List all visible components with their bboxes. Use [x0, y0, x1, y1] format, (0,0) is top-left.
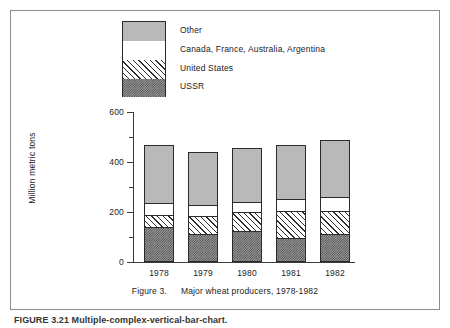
- page-undertext-line: FIGURE 3.21 Multiple-complex-vertical-ba…: [14, 315, 444, 326]
- bar-segment-canada-france-australia-argentina-1979: [189, 205, 217, 216]
- bar-segment-united-states-1980: [233, 212, 261, 232]
- bar-segment-canada-france-australia-argentina-1982: [321, 197, 349, 212]
- bar-segment-other-1981: [277, 146, 305, 198]
- y-tick-label-400: 400: [96, 158, 124, 167]
- bar-segment-canada-france-australia-argentina-1978: [145, 203, 173, 215]
- bar-stack-1981: [276, 145, 306, 262]
- bar-segment-ussr-1982: [321, 234, 349, 261]
- bar-segment-ussr-1979: [189, 234, 217, 261]
- bar-segment-canada-france-australia-argentina-1980: [233, 202, 261, 212]
- bar-segment-other-1979: [189, 153, 217, 205]
- bar-segment-united-states-1979: [189, 216, 217, 235]
- chart-plot-area: Million metric tons 0200400600 197819791…: [0, 0, 450, 328]
- figure-caption-number: Figure 3.: [132, 286, 167, 296]
- bar-segment-united-states-1978: [145, 215, 173, 228]
- bar-stack-1982: [320, 140, 350, 263]
- bar-1980: [232, 112, 262, 262]
- page-undertext: FIGURE 3.21 Multiple-complex-vertical-ba…: [14, 315, 444, 328]
- bar-stack-1979: [188, 152, 218, 262]
- y-tick-label-0: 0: [96, 258, 124, 267]
- bar-segment-other-1978: [145, 146, 173, 203]
- bar-stack-1978: [144, 145, 174, 263]
- bar-1982: [320, 112, 350, 262]
- bar-segment-canada-france-australia-argentina-1981: [277, 199, 305, 212]
- bar-segment-ussr-1978: [145, 227, 173, 261]
- bar-1978: [144, 112, 174, 262]
- bar-segment-ussr-1981: [277, 238, 305, 261]
- figure-caption: Figure 3.Major wheat producers, 1978-198…: [10, 286, 440, 296]
- bar-segment-other-1980: [233, 149, 261, 202]
- bar-segment-ussr-1980: [233, 231, 261, 261]
- bar-segment-other-1982: [321, 141, 349, 197]
- y-tick-label-200: 200: [96, 208, 124, 217]
- bar-group: [133, 112, 355, 262]
- figure-screenshot: Other Canada, France, Australia, Argenti…: [0, 0, 450, 328]
- bar-1981: [276, 112, 306, 262]
- figure-caption-text: Major wheat producers, 1978-1982: [181, 286, 318, 296]
- y-tick-major-0: [127, 262, 134, 263]
- bar-stack-1980: [232, 148, 262, 262]
- bar-segment-united-states-1982: [321, 211, 349, 234]
- bar-segment-united-states-1981: [277, 211, 305, 238]
- y-axis-title: Million metric tons: [27, 114, 37, 222]
- x-tick-label-1982: 1982: [309, 268, 361, 278]
- y-tick-label-600: 600: [96, 108, 124, 117]
- bar-1979: [188, 112, 218, 262]
- x-axis-line: [133, 262, 355, 263]
